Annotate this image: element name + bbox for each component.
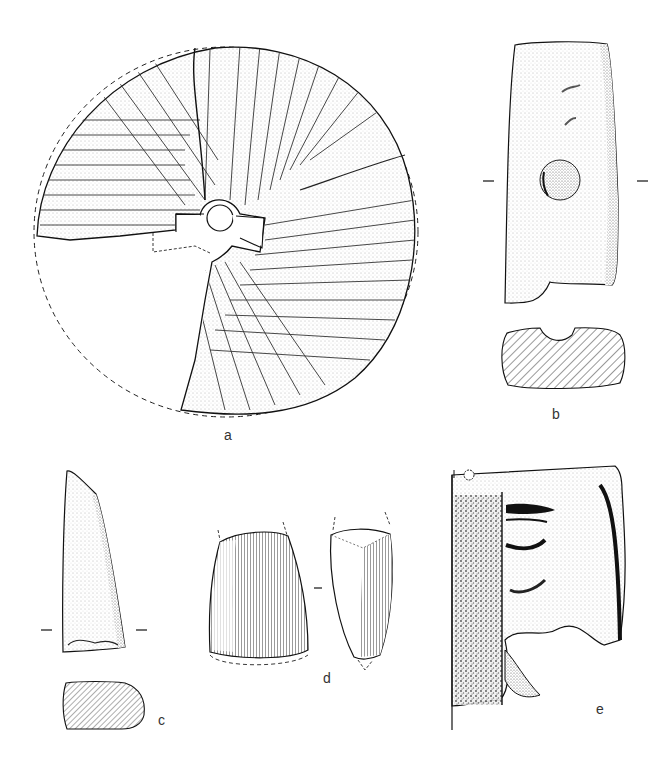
figure-label-a: a [224, 427, 232, 443]
figure-label-b: b [552, 406, 560, 422]
figure-d-axe [209, 512, 392, 670]
figure-c-tool [41, 471, 147, 729]
figure-label-d: d [323, 670, 331, 686]
figure-e-relief [452, 466, 625, 730]
central-hole [207, 205, 233, 231]
cross-section-b [502, 328, 625, 389]
figure-label-c: c [158, 712, 165, 728]
figure-b-stone [483, 42, 648, 389]
figure-label-e: e [596, 701, 604, 717]
cross-section-c [63, 682, 144, 730]
figure-a-millstone [34, 45, 418, 417]
